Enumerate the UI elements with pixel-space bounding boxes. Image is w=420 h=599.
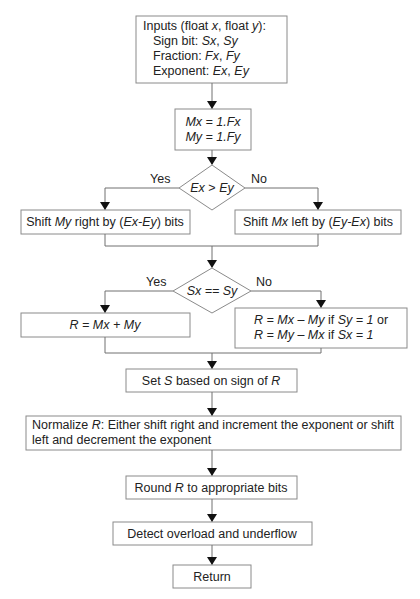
add-box: R = Mx + My (21, 313, 190, 337)
decision-sign-no-label: No (256, 275, 272, 289)
set-sign-text: Set S based on sign of R (142, 374, 280, 388)
arrow-sign-no (251, 291, 321, 307)
shift-my-box: Shift My right by (Ex-Ey) bits (21, 210, 190, 234)
merge-shift (105, 234, 318, 246)
arrow-sign-yes (105, 291, 173, 312)
shift-mx-text: Shift Mx left by (Ey-Ex) bits (243, 215, 393, 229)
detect-text: Detect overload and underflow (127, 527, 298, 541)
decision-sign-yes-label: Yes (146, 275, 166, 289)
set-sign-box: Set S based on sign of R (126, 369, 297, 392)
normalize-box: Normalize R: Either shift right and incr… (26, 416, 401, 450)
decision-sign: Sx == Sy (173, 268, 251, 313)
add-text: R = Mx + My (70, 318, 142, 332)
inputs-box: Inputs (float x, float y):Sign bit: Sx, … (136, 16, 287, 83)
arrow-decision-no (245, 188, 318, 209)
mantissa-text: Mx = 1.FxMy = 1.Fy (185, 115, 241, 144)
flowchart: Inputs (float x, float y):Sign bit: Sx, … (0, 0, 420, 599)
shift-mx-box: Shift Mx left by (Ey-Ex) bits (235, 210, 401, 234)
round-text: Round R to appropriate bits (135, 481, 288, 495)
mantissa-box: Mx = 1.FxMy = 1.Fy (175, 109, 251, 150)
decision-sign-text: Sx == Sy (187, 284, 238, 298)
decision-exponent: Ex > Ey (179, 165, 245, 210)
subtract-text: R = Mx – My if Sy = 1 orR = My – Mx if S… (254, 313, 388, 342)
round-box: Round R to appropriate bits (126, 476, 297, 499)
subtract-box: R = Mx – My if Sy = 1 orR = My – Mx if S… (235, 308, 407, 348)
return-box: Return (173, 565, 251, 588)
shift-my-text: Shift My right by (Ex-Ey) bits (26, 215, 184, 229)
detect-box: Detect overload and underflow (113, 522, 312, 545)
decision-exponent-no-label: No (251, 172, 267, 186)
decision-exponent-yes-label: Yes (150, 172, 170, 186)
decision-exponent-text: Ex > Ey (190, 181, 234, 195)
arrow-decision-yes (105, 188, 179, 209)
return-text: Return (193, 570, 231, 584)
